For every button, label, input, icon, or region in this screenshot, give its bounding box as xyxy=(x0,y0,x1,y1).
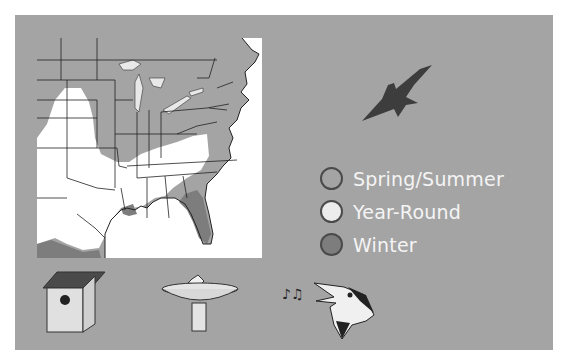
legend-item-spring-summer: Spring/Summer xyxy=(320,162,504,195)
svg-text:♪♫: ♪♫ xyxy=(282,286,304,302)
eastern-us-map xyxy=(37,38,262,258)
bird-silhouette-icon xyxy=(360,63,440,123)
legend-label: Spring/Summer xyxy=(353,168,504,190)
spring-summer-swatch xyxy=(320,167,343,190)
range-map-panel: Spring/Summer Year-Round Winter ♪♫ xyxy=(15,15,553,350)
legend-label: Year-Round xyxy=(353,201,461,223)
singing-bird-icon: ♪♫ xyxy=(280,277,380,341)
legend-item-winter: Winter xyxy=(320,228,504,261)
range-map xyxy=(37,38,262,258)
winter-swatch xyxy=(320,233,343,256)
legend-item-year-round: Year-Round xyxy=(320,195,504,228)
birdhouse-icon xyxy=(35,270,107,334)
legend-label: Winter xyxy=(353,234,417,256)
legend: Spring/Summer Year-Round Winter xyxy=(320,162,504,261)
year-round-swatch xyxy=(320,200,343,223)
birdbath-icon xyxy=(160,271,240,335)
